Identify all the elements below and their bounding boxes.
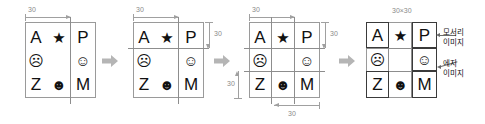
p1-dim-tick-left: [25, 14, 26, 21]
p1-dim-line: [25, 17, 71, 18]
p2-cell-smile: ☺: [179, 49, 203, 72]
p4-cell-z-corner: Z: [366, 71, 389, 98]
corner-callout-line-1: 모서리: [443, 28, 464, 38]
p1-dim-label: 30: [28, 6, 36, 13]
p3-dim-bottom-tick: [319, 102, 320, 109]
p4-cell-darkface: ☻: [389, 71, 412, 98]
flow-arrow-2: [214, 55, 230, 67]
p1-cell-z: Z: [25, 72, 47, 96]
p3-cell-p: P: [295, 25, 319, 49]
p4-cell-frown: ☹: [366, 48, 389, 71]
p1-cell-darkface: ☻: [47, 72, 71, 96]
p3-cell-frown: ☹: [249, 49, 271, 72]
p2-cell-a: A: [133, 25, 155, 49]
edge-callout-line-1: 에지: [443, 59, 464, 69]
p4-size-caption: 30×30: [392, 7, 412, 14]
p3-dim-top-tick: [249, 14, 250, 21]
p3-dim-left-label: 30: [227, 80, 235, 87]
p3-cell-m: M: [295, 72, 319, 96]
p2-cell-star: ★: [155, 25, 179, 49]
p2-cell-frown: ☹: [133, 49, 155, 72]
p1-cell-p: P: [71, 25, 95, 49]
p2-dim-top-line: [133, 17, 179, 18]
p2-cell-z: Z: [133, 72, 155, 96]
p2-dim-top-tick: [133, 14, 134, 21]
p3-cell-a: A: [249, 25, 271, 49]
corner-callout: 모서리 이미지: [443, 28, 464, 48]
p3-cell-z: Z: [249, 72, 271, 96]
p2-cell-m: M: [179, 72, 203, 96]
p2-cell-darkface: ☻: [155, 72, 179, 96]
p3-dim-right-label: 30: [330, 30, 338, 37]
p2-cell-p: P: [179, 25, 203, 49]
edge-callout-arrowhead: [437, 65, 441, 69]
p3-cell-star: ★: [271, 25, 295, 49]
p3-dim-right-arrowhead: [322, 44, 326, 49]
p4-cell-a-corner: A: [366, 22, 389, 48]
p4-cell-star: ★: [389, 22, 412, 48]
p3-dim-bottom-label: 30: [288, 110, 296, 117]
p3-dim-left-arrowhead: [235, 71, 239, 76]
p3-cell-darkface: ☻: [271, 72, 295, 96]
p3-dim-bottom-line: [274, 105, 320, 106]
figure-canvas: 30 A ★ P ☹ ☺ Z ☻ M 30 30 A ★ P: [0, 0, 485, 124]
p1-cell-m: M: [71, 72, 95, 96]
flow-arrow-1: [102, 55, 118, 67]
p3-dim-right-tick: [321, 22, 329, 23]
corner-callout-line-2: 이미지: [443, 38, 464, 48]
p4-cell-m-corner: M: [412, 71, 437, 98]
corner-callout-arrowhead: [436, 33, 440, 37]
p2-dim-right-label: 30: [214, 30, 222, 37]
p4-cell-p-corner: P: [412, 22, 437, 48]
p3-dim-bottom-arrowhead: [274, 103, 279, 107]
p3-dim-left-tick: [234, 98, 242, 99]
flow-arrow-3: [339, 55, 355, 67]
p2-dim-top-label: 30: [136, 6, 144, 13]
p3-cell-smile: ☺: [295, 49, 319, 72]
p1-cell-a: A: [25, 25, 47, 49]
p2-dim-right-arrowhead: [206, 44, 210, 49]
edge-callout: 에지 이미지: [443, 59, 464, 79]
p3-dim-top-label: 30: [252, 6, 260, 13]
p1-cell-star: ★: [47, 25, 71, 49]
p2-dim-right-tick: [205, 22, 213, 23]
p3-dim-top-line: [249, 17, 295, 18]
p1-cell-smile: ☺: [71, 49, 95, 72]
p4-cell-smile-edge: ☺: [412, 48, 437, 71]
edge-callout-line-2: 이미지: [443, 69, 464, 79]
p1-cell-frown: ☹: [25, 49, 47, 72]
